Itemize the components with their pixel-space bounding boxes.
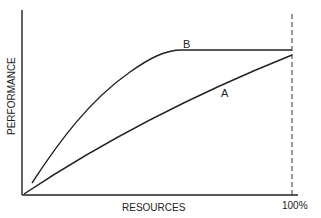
series-b-label: B [183, 38, 190, 50]
y-axis-label: PERFORMANCE [6, 57, 17, 135]
x-axis-label: RESOURCES [122, 202, 186, 213]
curve-a [24, 55, 292, 194]
curve-b [32, 50, 292, 183]
chart: B A RESOURCES 100% PERFORMANCE [0, 0, 321, 218]
series-a-label: A [221, 87, 229, 99]
x-end-tick-label: 100% [282, 200, 308, 211]
